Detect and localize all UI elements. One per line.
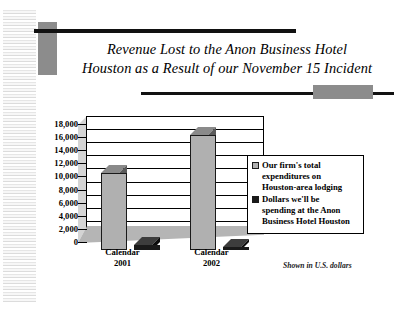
y-axis-tick-label: 16,000: [42, 133, 78, 142]
legend-item-label-line: Houston-area lodging: [262, 182, 342, 193]
decorative-rule-top: [34, 29, 296, 33]
legend-item-label-line: Dollars we'll be: [262, 194, 350, 205]
legend-color-swatch: [252, 162, 259, 169]
bar-chart: 02,0004,0006,0008,00010,00012,00014,0001…: [42, 116, 272, 261]
legend-item: Dollars we'll bespending at the AnonBusi…: [252, 194, 361, 227]
x-axis-category-label-line: Calendar: [78, 247, 167, 258]
legend-item-label-line: Business Hotel Houston: [262, 216, 350, 227]
legend-item: Our firm's totalexpenditures onHouston-a…: [252, 160, 361, 193]
bar-front-face: [101, 173, 127, 250]
x-axis-category-labels: Calendar2001Calendar2002: [78, 247, 264, 275]
y-axis-tick-label: 10,000: [42, 172, 78, 181]
y-axis-tick-label: 4,000: [42, 211, 78, 220]
legend-item-label-line: expenditures on: [262, 171, 342, 182]
chart-footnote: Shown in U.S. dollars: [283, 261, 393, 270]
x-axis-category-label-line: 2001: [78, 258, 167, 269]
decorative-stripe-band: [3, 8, 36, 302]
y-axis-tick-label: 14,000: [42, 146, 78, 155]
legend-item-label-line: Our firm's total: [262, 160, 342, 171]
legend-item-label: Dollars we'll bespending at the AnonBusi…: [262, 194, 350, 227]
legend-color-swatch: [252, 196, 259, 203]
bar: [190, 127, 216, 250]
slide-title-line-2: Houston as a Result of our November 15 I…: [62, 59, 392, 78]
x-axis-category-label: Calendar2001: [78, 247, 167, 268]
y-axis-tick-label: 6,000: [42, 198, 78, 207]
y-axis-tick-labels: 02,0004,0006,0008,00010,00012,00014,0001…: [42, 116, 78, 246]
slide-title: Revenue Lost to the Anon Business Hotel …: [62, 40, 392, 78]
y-axis-tick-label: 18,000: [42, 120, 78, 129]
bar-front-face: [190, 135, 216, 250]
legend-item-label: Our firm's totalexpenditures onHouston-a…: [262, 160, 342, 193]
x-axis-category-label-line: Calendar: [167, 247, 256, 258]
y-axis-tick-label: 8,000: [42, 185, 78, 194]
x-axis-category-label-line: 2002: [167, 258, 256, 269]
bar-series-group: [78, 116, 264, 243]
bar: [101, 165, 127, 250]
decorative-accent-bar: [313, 85, 373, 99]
y-axis-tick-label: 0: [42, 238, 78, 247]
slide-title-line-1: Revenue Lost to the Anon Business Hotel: [62, 40, 392, 59]
legend-item-label-line: spending at the Anon: [262, 205, 350, 216]
x-axis-category-label: Calendar2002: [167, 247, 256, 268]
y-axis-tick-label: 12,000: [42, 159, 78, 168]
chart-legend: Our firm's totalexpenditures onHouston-a…: [247, 155, 364, 234]
y-axis-tick-label: 2,000: [42, 224, 78, 233]
plot-area: [78, 116, 264, 248]
